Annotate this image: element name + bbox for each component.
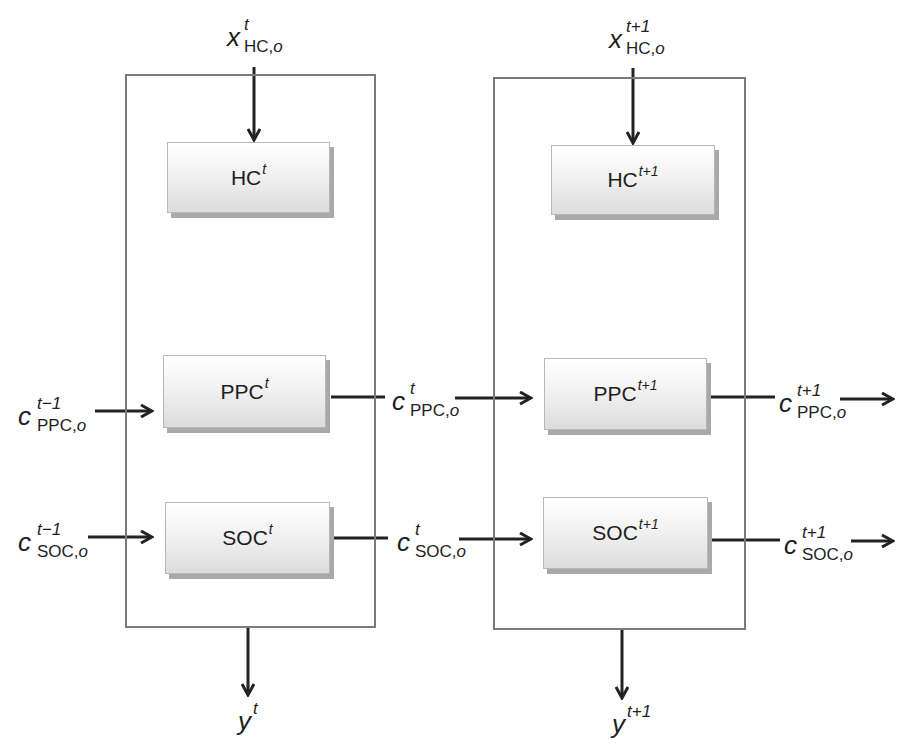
label-x-hc-t1: x t+1 HC,o [609,18,689,63]
node-sup: t [265,375,269,391]
node-name: HC [607,168,637,192]
node-name: PPC [220,380,263,404]
node-sup: t+1 [639,163,659,179]
node-sup: t [269,521,273,537]
label-c-soc-t1: c t+1 SOC,o [784,524,849,569]
node-sup: t+1 [639,516,659,532]
label-c-ppc-tm1: c t−1 PPC,o [18,395,93,440]
soc-node-t1: SOCt+1 [543,497,708,569]
label-c-soc-tm1: c t−1 SOC,o [18,521,88,566]
node-name: SOC [592,521,638,545]
node-sup: t+1 [638,377,658,393]
label-y-t1: y t+1 [612,703,667,743]
node-name: SOC [222,526,268,550]
soc-node-t: SOCt [165,502,330,574]
label-c-ppc-t: c t PPC,o [392,380,457,425]
node-name: HC [231,166,261,190]
node-sup: t [262,161,266,177]
label-y-t: y t [238,700,278,740]
label-c-ppc-t1: c t+1 PPC,o [779,382,844,427]
node-name: PPC [593,382,636,406]
label-c-soc-t: c t SOC,o [397,521,459,566]
ppc-node-t: PPCt [163,355,326,428]
hc-node-t1: HCt+1 [551,145,715,215]
hc-node-t: HCt [167,142,330,213]
ppc-node-t1: PPCt+1 [544,358,707,430]
label-x-hc-t: x t HC,o [227,16,297,61]
